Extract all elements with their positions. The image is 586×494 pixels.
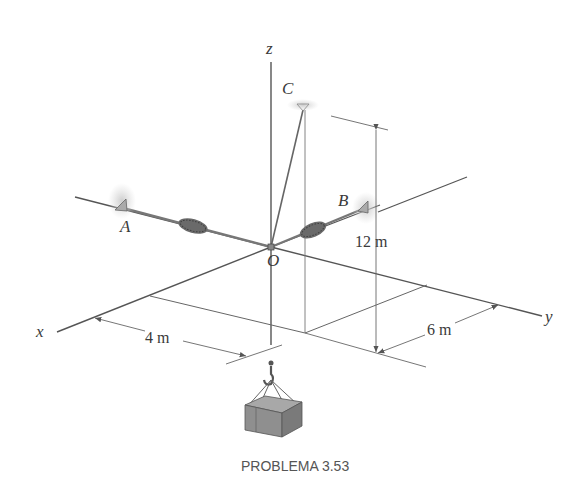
spring-b: [297, 218, 328, 242]
dim-4m-line-right: [183, 341, 246, 356]
y-axis: [271, 247, 542, 316]
dim-4m-line-left: [95, 318, 145, 331]
x-axis-negative-far: [378, 177, 467, 212]
dim-6m-line-upper: [455, 305, 498, 323]
x-axis: [57, 247, 271, 332]
axis-label-x: x: [35, 322, 44, 341]
dim-label-4m: 4 m: [145, 329, 170, 346]
dim-label-6m: 6 m: [427, 321, 452, 338]
axis-label-y: y: [543, 307, 553, 326]
statics-diagram: z x y A B C O 12 m 4 m 6 m PROBLEMA 3.53: [0, 0, 586, 494]
point-label-b: B: [338, 191, 349, 210]
dim-label-12m: 12 m: [355, 233, 388, 250]
point-label-o: O: [267, 251, 279, 270]
floor-line-2: [305, 285, 427, 333]
dim-12m-top-ext: [331, 116, 388, 130]
cable-oc: [271, 110, 303, 247]
floor-line-1: [150, 296, 305, 333]
figure-caption: PROBLEMA 3.53: [241, 458, 349, 474]
crate: [245, 380, 302, 437]
axis-label-z: z: [265, 39, 273, 58]
dim-4m-ext: [226, 345, 282, 364]
origin-joint: [268, 244, 274, 250]
point-label-c: C: [282, 79, 294, 98]
dim-6m-line-lower: [378, 335, 425, 353]
dim-12m-bottom-ext: [305, 333, 426, 367]
support-a: [108, 183, 136, 219]
point-label-a: A: [119, 217, 131, 236]
spring-a: [177, 215, 210, 236]
support-c: [287, 99, 319, 111]
